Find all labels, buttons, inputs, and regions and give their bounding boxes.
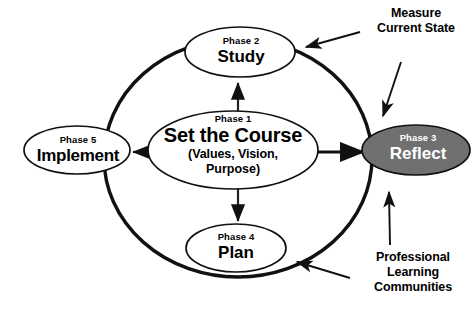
- leader-measure-to-study: [306, 32, 360, 47]
- node-study[interactable]: [185, 27, 295, 77]
- annotation-plc-line-2: Learning: [352, 265, 474, 280]
- annotation-measure-line-2: Current State: [358, 21, 474, 36]
- node-implement[interactable]: [24, 126, 130, 174]
- node-plan[interactable]: [186, 224, 286, 272]
- leader-measure-to-reflect: [383, 62, 401, 116]
- annotation-professional-learning-communities: Professional Learning Communities: [352, 250, 474, 294]
- annotation-plc-line-1: Professional: [352, 250, 474, 265]
- cycle-diagram: Phase 2 Study Phase 1 Set the Course (Va…: [0, 0, 476, 314]
- node-center[interactable]: [148, 111, 318, 189]
- annotation-measure-current-state: Measure Current State: [358, 6, 474, 36]
- leader-plc-to-reflect: [389, 192, 390, 245]
- annotation-plc-line-3: Communities: [352, 280, 474, 295]
- leader-plc-to-plan: [297, 262, 350, 278]
- node-reflect[interactable]: [362, 125, 470, 175]
- annotation-measure-line-1: Measure: [358, 6, 474, 21]
